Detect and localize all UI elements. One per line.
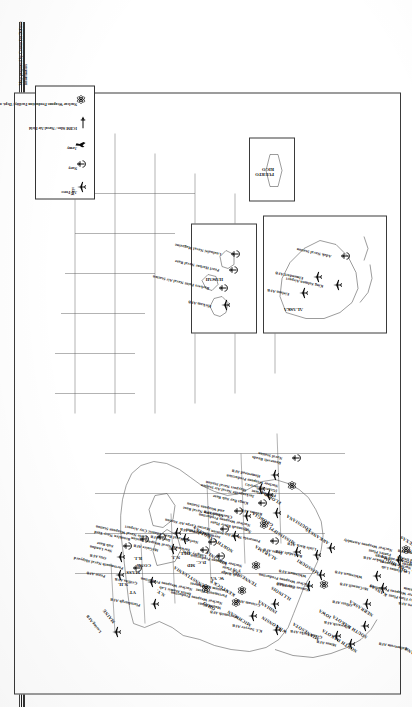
- airplane-icon: [327, 630, 345, 641]
- atom-icon: [255, 519, 273, 529]
- airplane-icon: [321, 542, 339, 553]
- anchor-icon: [265, 536, 283, 545]
- airplane-icon: [294, 287, 312, 298]
- airplane-icon: [355, 620, 373, 631]
- map-sheet: Nuclear Weapons Locations in the United …: [0, 0, 412, 707]
- anchor-icon: [287, 453, 305, 462]
- atom-icon: [315, 579, 333, 589]
- airplane-icon: [267, 507, 285, 518]
- airplane-icon: [311, 569, 329, 580]
- puerto-rico-inset: PUERTO RICO: [249, 137, 295, 201]
- anchor-icon: [214, 283, 232, 292]
- airplane-icon: [265, 469, 283, 480]
- atom-icon: [283, 480, 301, 490]
- state-label-r-i-: R.I.: [134, 555, 142, 560]
- state-label-vt: VT: [129, 589, 136, 594]
- airplane-icon: [111, 551, 129, 562]
- site-label: Eielson AFB: [267, 286, 290, 295]
- anchor-icon: [128, 563, 146, 572]
- airplane-icon: [145, 598, 163, 609]
- map-frame: MAINEVTN.H.MASSCONNR.I.N.Y.PENNSYLVANIAN…: [14, 92, 401, 694]
- site-label-line: Adak Naval Station: [296, 246, 332, 258]
- legend-item-label: ICBM Silos / Naval Air Field: [29, 125, 77, 130]
- airplane-icon: [357, 598, 375, 609]
- map-legend: Key: Air ForceNavyArmyICBM Silos / Naval…: [35, 85, 95, 199]
- anchor-icon: [336, 251, 354, 260]
- legend-item-label: Nuclear Weapons Production Facility / De…: [0, 101, 77, 106]
- airplane-icon: [243, 610, 261, 621]
- airplane-icon: [328, 279, 346, 290]
- puerto-rico-inset-label: PUERTO RICO: [246, 166, 274, 176]
- alaska-inset: ALASKA Eielson AFBElmendorf AFBKing Salm…: [263, 215, 387, 333]
- site-label-line: Eielson AFB: [267, 286, 290, 295]
- attribution-text: Map prepared by Center for Defense Infor…: [18, 3, 29, 85]
- legend-item-label: Air Force: [61, 189, 77, 194]
- airplane-icon: [216, 299, 234, 310]
- legend-item-label: Army: [67, 145, 77, 150]
- hawaii-inset: HAWAII Hickam AFBBarbers Point Naval Air…: [191, 223, 257, 333]
- anchor-icon: [226, 249, 244, 258]
- atom-icon: [233, 585, 251, 595]
- atom-icon: [247, 560, 265, 570]
- airplane-icon: [107, 626, 125, 637]
- hawaii-site-markers: Hickam AFBBarbers Point Naval Air Statio…: [192, 224, 256, 332]
- site-label: Hickam AFB: [188, 298, 212, 308]
- state-label-n-j-: N.J.: [171, 554, 180, 559]
- airplane-icon: [265, 598, 283, 609]
- site-label: Adak Naval Station: [296, 246, 332, 258]
- airplane-icon: [299, 580, 317, 591]
- alaska-site-markers: Eielson AFBElmendorf AFBKing Salmon Airp…: [264, 216, 386, 332]
- anchor-icon: [224, 265, 242, 274]
- legend-item-label: Navy: [68, 165, 77, 170]
- site-label-line: Hickam AFB: [188, 298, 212, 308]
- airplane-icon: [267, 624, 285, 635]
